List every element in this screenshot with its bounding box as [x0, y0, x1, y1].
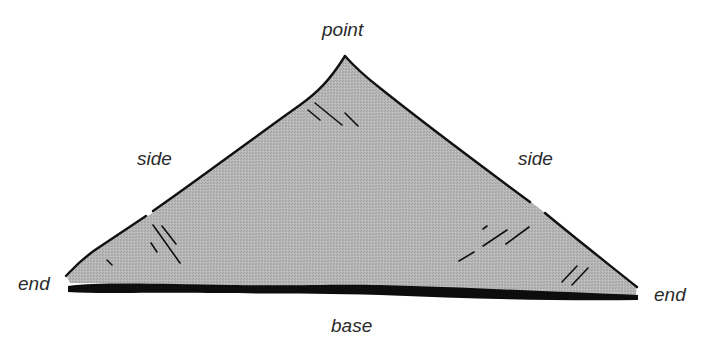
- label-end-right: end: [654, 285, 686, 304]
- label-side-right: side: [518, 149, 553, 168]
- shape-body: [67, 56, 636, 296]
- label-point: point: [322, 20, 363, 39]
- label-end-left: end: [18, 274, 50, 293]
- label-side-left: side: [137, 149, 172, 168]
- triangle-shape: [0, 0, 712, 348]
- label-base: base: [331, 316, 372, 335]
- diagram: point side side end end base: [0, 0, 712, 348]
